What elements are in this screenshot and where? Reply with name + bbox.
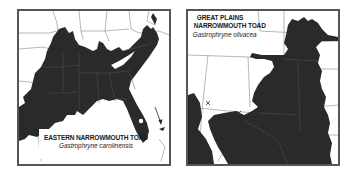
scientific-name: Gastrophryne carolinensis — [41, 142, 152, 150]
scientific-name: Gastrophryne olivacea — [193, 31, 247, 39]
lake-okeechobee — [139, 119, 143, 123]
caption-eastern: EASTERN NARROWMOUTH TOAD Gastrophryne ca… — [31, 134, 161, 150]
x-marker-icon — [206, 101, 210, 105]
arrow-icon — [155, 107, 165, 131]
range-map-eastern-narrowmouth-toad: EASTERN NARROWMOUTH TOAD Gastrophryne ca… — [17, 9, 171, 166]
caption-great-plains: GREAT PLAINS NARROWMOUTH TOAD Gastrophry… — [188, 14, 252, 39]
range-map-great-plains-narrowmouth-toad: GREAT PLAINS NARROWMOUTH TOAD Gastrophry… — [186, 9, 340, 166]
range-area — [19, 25, 159, 143]
